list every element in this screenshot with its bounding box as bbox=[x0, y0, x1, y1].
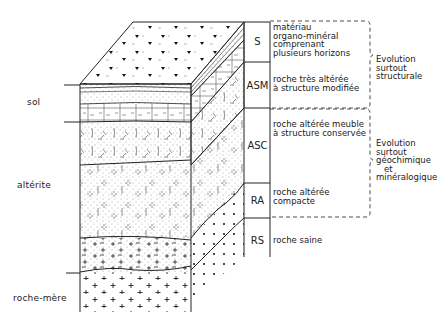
label-alterite: altérite bbox=[17, 181, 51, 190]
label-roche-mere: roche-mère bbox=[13, 294, 67, 303]
horizon-desc-asm: roche très altérée à structure modifiée bbox=[273, 75, 359, 92]
label-sol: sol bbox=[27, 98, 40, 107]
horizon-desc-ra: roche altérée compacte bbox=[273, 188, 329, 205]
evolution-geochemical: Evolution surtout géochimique et minéral… bbox=[376, 139, 437, 182]
horizon-desc-asc: roche altérée meuble à structure conserv… bbox=[273, 120, 366, 137]
evolution-structural: Evolution surtout structurale bbox=[376, 55, 422, 81]
horizon-desc-rs: roche saine bbox=[273, 236, 322, 245]
left-ticks bbox=[64, 85, 80, 273]
horizon-desc-s: matériau organo-minéral comprenant plusi… bbox=[273, 23, 350, 57]
horizon-code-asc: ASC bbox=[236, 140, 279, 151]
front-face bbox=[80, 84, 191, 312]
